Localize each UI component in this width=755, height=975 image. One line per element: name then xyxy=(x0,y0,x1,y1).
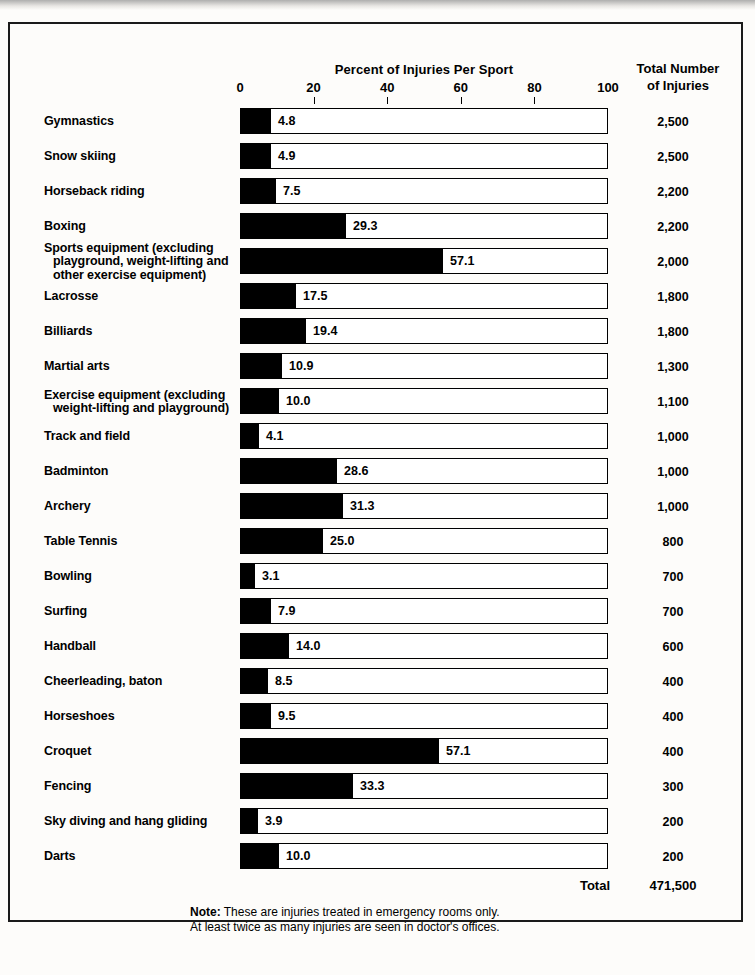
row-label: Handball xyxy=(44,640,234,654)
total-header-line-1: Total Number xyxy=(618,60,738,77)
row-label-line: Surfing xyxy=(44,605,234,619)
bar-track: 9.5 xyxy=(240,703,608,729)
row-label: Darts xyxy=(44,850,234,864)
footnote-line-1: Note: These are injuries treated in emer… xyxy=(190,905,620,920)
bar-track: 29.3 xyxy=(240,213,608,239)
bar-fill xyxy=(241,354,282,378)
bar-fill xyxy=(241,459,337,483)
bar-value-label: 17.5 xyxy=(303,289,327,303)
row-label-line: playground, weight-lifting and xyxy=(44,255,234,269)
row-label-line: Snow skiing xyxy=(44,150,234,164)
bar-track: 7.9 xyxy=(240,598,608,624)
row-total-injuries: 400 xyxy=(618,745,728,759)
row-total-injuries: 1,000 xyxy=(618,500,728,514)
bar-fill xyxy=(241,669,268,693)
chart-row: Boxing29.32,200 xyxy=(0,209,755,244)
row-label: Surfing xyxy=(44,605,234,619)
row-total-injuries: 2,200 xyxy=(618,185,728,199)
row-label-line: Billiards xyxy=(44,325,234,339)
bar-fill xyxy=(241,319,306,343)
bar-value-label: 10.0 xyxy=(286,849,310,863)
bar-value-label: 4.1 xyxy=(266,429,283,443)
footnote-text-1: These are injuries treated in emergency … xyxy=(221,905,500,919)
grand-total-row: Total 471,500 xyxy=(0,878,755,900)
grand-total-value: 471,500 xyxy=(618,878,728,893)
row-label-line: Gymnastics xyxy=(44,115,234,129)
bar-track: 25.0 xyxy=(240,528,608,554)
row-label-line: Lacrosse xyxy=(44,290,234,304)
row-label: Cheerleading, baton xyxy=(44,675,234,689)
x-axis-tick-label: 100 xyxy=(597,80,619,95)
row-total-injuries: 200 xyxy=(618,815,728,829)
row-total-injuries: 400 xyxy=(618,710,728,724)
bar-value-label: 33.3 xyxy=(360,779,384,793)
x-axis-tick-mark xyxy=(534,97,535,104)
x-axis-tick-label: 20 xyxy=(306,80,320,95)
row-total-injuries: 1,100 xyxy=(618,395,728,409)
bar-value-label: 3.1 xyxy=(262,569,279,583)
bar-track: 3.9 xyxy=(240,808,608,834)
bar-value-label: 10.0 xyxy=(286,394,310,408)
chart-axis-title: Percent of Injuries Per Sport xyxy=(240,62,608,77)
row-label: Table Tennis xyxy=(44,535,234,549)
row-total-injuries: 200 xyxy=(618,850,728,864)
bar-value-label: 8.5 xyxy=(275,674,292,688)
bar-value-label: 10.9 xyxy=(289,359,313,373)
bar-fill xyxy=(241,494,343,518)
bar-track: 8.5 xyxy=(240,668,608,694)
chart-page: Percent of Injuries Per Sport Total Numb… xyxy=(0,0,755,975)
row-label: Sky diving and hang gliding xyxy=(44,815,234,829)
row-label-line: Cheerleading, baton xyxy=(44,675,234,689)
bar-value-label: 31.3 xyxy=(350,499,374,513)
bar-fill xyxy=(241,249,443,273)
row-total-injuries: 1,300 xyxy=(618,360,728,374)
x-axis-tick-mark xyxy=(387,97,388,104)
bar-fill xyxy=(241,844,279,868)
chart-row: Archery31.31,000 xyxy=(0,489,755,524)
chart-row: Billiards19.41,800 xyxy=(0,314,755,349)
chart-row: Track and field4.11,000 xyxy=(0,419,755,454)
bar-track: 3.1 xyxy=(240,563,608,589)
x-axis-tick-mark xyxy=(314,97,315,104)
x-axis: 020406080100 xyxy=(240,80,608,104)
bar-value-label: 14.0 xyxy=(296,639,320,653)
chart-rows: Gymnastics4.82,500Snow skiing4.92,500Hor… xyxy=(0,104,755,874)
bar-value-label: 7.5 xyxy=(283,184,300,198)
bar-fill xyxy=(241,284,296,308)
bar-track: 7.5 xyxy=(240,178,608,204)
bar-fill xyxy=(241,599,271,623)
total-header-line-2: of Injuries xyxy=(618,77,738,94)
row-label: Gymnastics xyxy=(44,115,234,129)
row-label: Lacrosse xyxy=(44,290,234,304)
bar-track: 10.0 xyxy=(240,843,608,869)
bar-fill xyxy=(241,424,259,448)
bar-track: 4.9 xyxy=(240,143,608,169)
row-label-line: Badminton xyxy=(44,465,234,479)
row-label: Exercise equipment (excludingweight-lift… xyxy=(44,388,234,415)
row-label: Billiards xyxy=(44,325,234,339)
row-total-injuries: 700 xyxy=(618,605,728,619)
bar-fill xyxy=(241,774,353,798)
row-total-injuries: 800 xyxy=(618,535,728,549)
bar-value-label: 57.1 xyxy=(446,744,470,758)
row-label-line: Sports equipment (excluding xyxy=(44,241,234,255)
row-total-injuries: 1,000 xyxy=(618,465,728,479)
bar-fill xyxy=(241,634,289,658)
bar-value-label: 4.9 xyxy=(278,149,295,163)
row-label-line: Table Tennis xyxy=(44,535,234,549)
footnote-lead: Note: xyxy=(190,905,221,919)
bar-value-label: 29.3 xyxy=(353,219,377,233)
chart-row: Badminton28.61,000 xyxy=(0,454,755,489)
bar-fill xyxy=(241,389,279,413)
bar-value-label: 25.0 xyxy=(330,534,354,548)
chart-row: Snow skiing4.92,500 xyxy=(0,139,755,174)
bar-fill xyxy=(241,704,271,728)
bar-track: 10.0 xyxy=(240,388,608,414)
row-label: Horseshoes xyxy=(44,710,234,724)
row-label: Bowling xyxy=(44,570,234,584)
chart-row: Surfing7.9700 xyxy=(0,594,755,629)
chart-row: Darts10.0200 xyxy=(0,839,755,874)
chart-row: Handball14.0600 xyxy=(0,629,755,664)
bar-track: 57.1 xyxy=(240,738,608,764)
chart-row: Exercise equipment (excludingweight-lift… xyxy=(0,384,755,419)
